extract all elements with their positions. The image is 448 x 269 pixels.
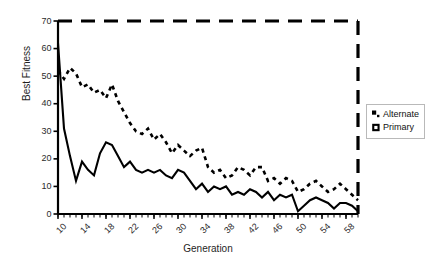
legend-item-alternate: Alternate [371,108,419,121]
y-axis-title: Best Fitness [21,24,32,124]
legend-item-primary: Primary [371,121,419,134]
chart-legend: Alternate Primary [366,104,425,139]
y-tick-label: 0 [30,210,52,219]
chart-figure: 010203040506070 101418222630343842465054… [0,0,448,269]
legend-label-primary: Primary [383,123,414,132]
y-tick-label: 30 [30,127,52,136]
y-tick-label: 10 [30,182,52,191]
open-square-icon [371,122,382,133]
y-tick-label: 70 [30,17,52,26]
series-line-alternate [58,68,358,200]
y-tick-label: 40 [30,99,52,108]
axis-frame [58,21,358,214]
small-filled-square-icon [371,109,382,120]
y-tick-label: 20 [30,154,52,163]
series-line-primary [58,43,358,211]
x-axis-title: Generation [58,243,358,254]
y-tick-label: 50 [30,72,52,81]
y-tick-label: 60 [30,44,52,53]
legend-label-alternate: Alternate [383,110,419,119]
